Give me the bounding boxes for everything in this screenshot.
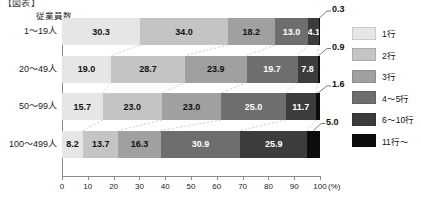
legend-swatch-icon bbox=[352, 91, 376, 104]
x-axis-tick bbox=[165, 176, 166, 180]
legend-item-label: 1行 bbox=[382, 27, 396, 39]
x-axis-tick-label: 0 bbox=[60, 182, 64, 191]
x-axis-tick-label: 40 bbox=[161, 182, 170, 191]
x-axis-tick-label: 50 bbox=[187, 182, 196, 191]
x-axis-tick-label: 60 bbox=[212, 182, 221, 191]
bar-segment[interactable] bbox=[316, 93, 320, 120]
x-axis-tick bbox=[294, 176, 295, 180]
bar-segment-value: 23.9 bbox=[207, 64, 225, 74]
bar-segment-value: 25.0 bbox=[245, 102, 263, 112]
callout-value: 1.6 bbox=[332, 79, 345, 89]
bar-segment-value: 30.3 bbox=[92, 27, 110, 37]
x-axis-tick-label: 100 bbox=[313, 182, 326, 191]
x-axis-tick bbox=[62, 176, 63, 180]
x-axis-tick-label: 30 bbox=[135, 182, 144, 191]
x-axis-tick-label: 70 bbox=[238, 182, 247, 191]
bar-segment[interactable]: 15.7 bbox=[62, 93, 103, 120]
bar-segment[interactable]: 19.7 bbox=[247, 56, 298, 83]
category-label: 1〜19人 bbox=[24, 18, 57, 45]
callout-leader-line bbox=[319, 49, 331, 56]
bar-segment-value: 25.9 bbox=[265, 139, 283, 149]
bar-row: 1〜19人30.334.018.213.04.1 bbox=[62, 18, 320, 45]
x-axis-tick bbox=[243, 176, 244, 180]
stacked-bar: 8.213.716.330.925.9 bbox=[62, 131, 320, 158]
bar-segment[interactable]: 30.3 bbox=[62, 18, 140, 45]
legend-item[interactable]: 1行 bbox=[352, 24, 414, 42]
bar-segment[interactable]: 23.9 bbox=[185, 56, 247, 83]
category-label: 50〜99人 bbox=[19, 93, 57, 120]
bar-segment-value: 13.0 bbox=[283, 27, 301, 37]
chart-legend: 1行2行3行4〜5行6〜10行11行〜 bbox=[352, 24, 414, 153]
bar-segment[interactable]: 7.8 bbox=[298, 56, 318, 83]
x-axis-tick-label: 90 bbox=[290, 182, 299, 191]
callout-value: 0.3 bbox=[332, 4, 345, 14]
bar-segment-value: 19.0 bbox=[78, 64, 96, 74]
chart-figure: 【図表】 従業員数 0102030405060708090100(%) 1〜19… bbox=[0, 0, 421, 206]
legend-item[interactable]: 2行 bbox=[352, 46, 414, 64]
x-axis-tick bbox=[114, 176, 115, 180]
bar-segment[interactable]: 13.7 bbox=[83, 131, 118, 158]
callout-leader-line bbox=[319, 11, 331, 18]
bar-segment[interactable]: 19.0 bbox=[62, 56, 111, 83]
bar-segment[interactable]: 8.2 bbox=[62, 131, 83, 158]
legend-item-label: 4〜5行 bbox=[382, 92, 409, 104]
legend-swatch-icon bbox=[352, 48, 376, 61]
x-axis-tick-label: 80 bbox=[264, 182, 273, 191]
legend-item-label: 6〜10行 bbox=[382, 113, 414, 125]
bar-segment[interactable]: 11.7 bbox=[286, 93, 316, 120]
x-axis-tick bbox=[139, 176, 140, 180]
x-axis-tick bbox=[191, 176, 192, 180]
x-axis-tick bbox=[88, 176, 89, 180]
stacked-bar: 15.723.023.025.011.7 bbox=[62, 93, 320, 120]
legend-item[interactable]: 4〜5行 bbox=[352, 89, 414, 107]
bar-segment[interactable]: 25.0 bbox=[221, 93, 286, 120]
bar-segment[interactable]: 23.0 bbox=[162, 93, 221, 120]
category-label: 20〜49人 bbox=[19, 56, 57, 83]
bar-segment-value: 19.7 bbox=[263, 64, 281, 74]
bar-segment-value: 8.2 bbox=[66, 139, 79, 149]
bar-row: 100〜499人8.213.716.330.925.9 bbox=[62, 131, 320, 158]
bar-segment[interactable]: 13.0 bbox=[275, 18, 309, 45]
legend-item[interactable]: 6〜10行 bbox=[352, 110, 414, 128]
bar-segment[interactable]: 18.2 bbox=[228, 18, 275, 45]
stacked-bar: 30.334.018.213.04.1 bbox=[62, 18, 320, 45]
bar-segment[interactable]: 4.1 bbox=[308, 18, 319, 45]
x-axis-unit-label: (%) bbox=[328, 182, 340, 191]
x-axis-tick bbox=[320, 176, 321, 180]
bar-segment[interactable] bbox=[307, 131, 320, 158]
plot-area: 1〜19人30.334.018.213.04.120〜49人19.028.723… bbox=[62, 18, 320, 176]
legend-item-label: 3行 bbox=[382, 70, 396, 82]
bar-segment[interactable]: 25.9 bbox=[240, 131, 307, 158]
callout-value: 5.0 bbox=[326, 117, 339, 127]
stacked-bar: 19.028.723.919.77.8 bbox=[62, 56, 320, 83]
bar-segment[interactable]: 23.0 bbox=[103, 93, 162, 120]
x-axis-tick bbox=[217, 176, 218, 180]
legend-item-label: 2行 bbox=[382, 49, 396, 61]
legend-item-label: 11行〜 bbox=[382, 135, 409, 147]
bar-segment-value: 30.9 bbox=[192, 139, 210, 149]
x-axis-tick-label: 20 bbox=[109, 182, 118, 191]
bar-segment[interactable]: 34.0 bbox=[140, 18, 228, 45]
bar-segment-value: 28.7 bbox=[139, 64, 157, 74]
bar-segment[interactable] bbox=[318, 56, 320, 83]
bar-segment-value: 7.8 bbox=[301, 64, 314, 74]
bar-segment-value: 23.0 bbox=[183, 102, 201, 112]
bar-segment-value: 16.3 bbox=[131, 139, 149, 149]
x-axis-tick-label: 10 bbox=[83, 182, 92, 191]
bar-segment[interactable]: 30.9 bbox=[161, 131, 241, 158]
legend-swatch-icon bbox=[352, 113, 376, 126]
bar-row: 20〜49人19.028.723.919.77.8 bbox=[62, 56, 320, 83]
figure-caption: 【図表】 bbox=[3, 0, 40, 9]
bar-segment[interactable] bbox=[319, 18, 320, 45]
legend-item[interactable]: 11行〜 bbox=[352, 132, 414, 150]
legend-swatch-icon bbox=[352, 70, 376, 83]
bar-segment-value: 18.2 bbox=[243, 27, 261, 37]
x-axis-tick bbox=[268, 176, 269, 180]
legend-swatch-icon bbox=[352, 27, 376, 40]
bar-segment-value: 13.7 bbox=[92, 139, 110, 149]
bar-row: 50〜99人15.723.023.025.011.7 bbox=[62, 93, 320, 120]
legend-swatch-icon bbox=[352, 134, 376, 147]
bar-segment[interactable]: 16.3 bbox=[118, 131, 160, 158]
bar-segment[interactable]: 28.7 bbox=[111, 56, 185, 83]
legend-item[interactable]: 3行 bbox=[352, 67, 414, 85]
